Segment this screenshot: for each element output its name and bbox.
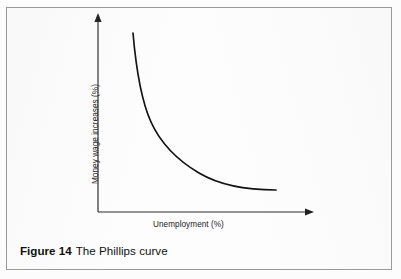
x-axis-arrow-icon (305, 208, 314, 215)
figure-caption-text: The Phillips curve (76, 244, 168, 257)
y-axis-label: Money wage increases (%) (91, 84, 100, 184)
phillips-curve-line (133, 33, 276, 190)
figure-border-frame: Money wage increases (%) Unemployment (%… (6, 7, 392, 270)
phillips-curve-chart (7, 8, 393, 223)
figure-page: Money wage increases (%) Unemployment (%… (0, 0, 401, 279)
chart-plot-area: Money wage increases (%) Unemployment (%… (7, 8, 393, 223)
y-axis-arrow-icon (94, 13, 101, 22)
figure-caption-number: Figure 14 (20, 244, 72, 257)
x-axis-label: Unemployment (%) (153, 220, 224, 229)
figure-caption: Figure 14The Phillips curve (20, 244, 168, 257)
